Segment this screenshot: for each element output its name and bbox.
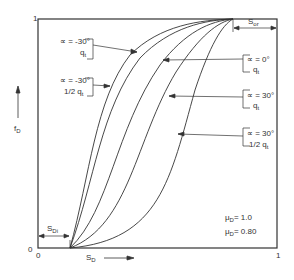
y-origin-tick: 0 bbox=[28, 245, 32, 254]
curve-label-3-rate: qt bbox=[253, 65, 259, 77]
sor-label: Sor bbox=[248, 17, 259, 29]
curve-label-1-alpha: ∝ = -30° bbox=[60, 37, 90, 46]
y-axis-label: fD bbox=[14, 124, 21, 136]
curve-label-5-alpha: ∝ = 30° bbox=[247, 129, 274, 138]
x-axis-label: SD bbox=[86, 253, 96, 265]
y-max-tick: 1 bbox=[33, 14, 37, 23]
viscosity-ratio-2: μD= 0.80 bbox=[225, 227, 256, 239]
curve-label-4-alpha: ∝ = 30° bbox=[247, 91, 274, 100]
viscosity-ratio-1: μD= 1.0 bbox=[225, 213, 252, 225]
curve-label-2-alpha: ∝ = -30° bbox=[60, 76, 90, 85]
curve-label-2-rate: 1/2 qt bbox=[64, 87, 83, 99]
sdi-label: SDi bbox=[47, 224, 58, 236]
curve-label-5-rate: 1/2 qt bbox=[249, 140, 268, 152]
x-max-tick: 1 bbox=[276, 251, 280, 260]
curve-label-4-rate: qt bbox=[253, 101, 259, 113]
curve-label-3-alpha: ∝ = 0° bbox=[247, 55, 270, 64]
curve-label-1-rate: qt bbox=[80, 48, 86, 60]
x-origin-tick: 0 bbox=[36, 251, 40, 260]
